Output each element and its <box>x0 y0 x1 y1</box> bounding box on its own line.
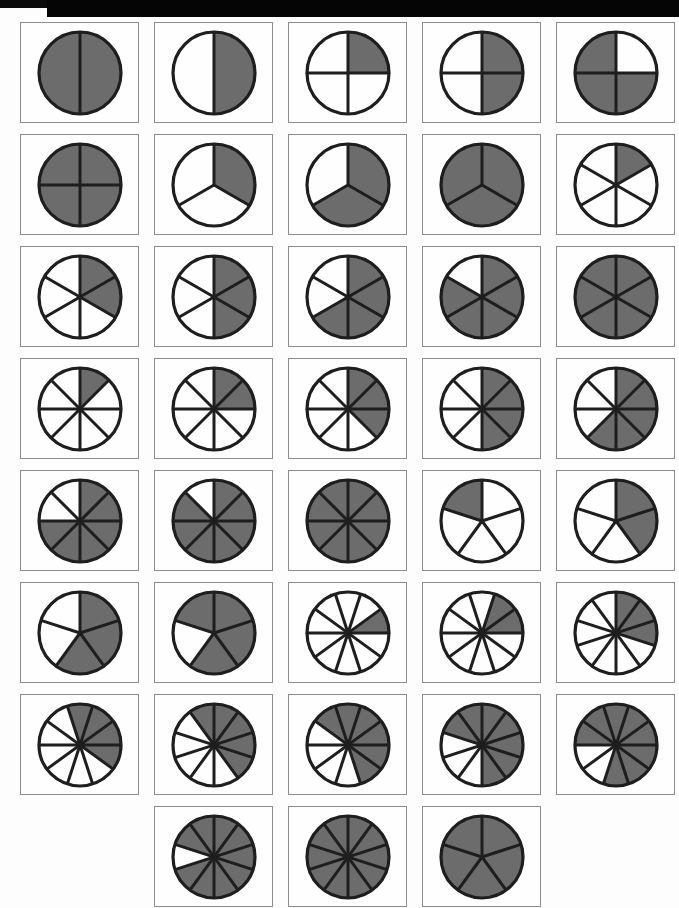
pie-circle-5-of-6 <box>435 250 529 344</box>
slice-shaded <box>214 32 255 114</box>
pie-circle-3-of-6 <box>167 250 261 344</box>
fraction-circle-cell <box>20 22 139 123</box>
fraction-circle-cell <box>556 134 675 235</box>
fraction-circle-cell <box>20 134 139 235</box>
fraction-circle-cell <box>556 470 675 571</box>
pie-circle-5-of-5 <box>435 810 529 904</box>
fraction-circle-cell <box>154 358 273 459</box>
fraction-circle-cell <box>556 22 675 123</box>
fraction-circle-cell <box>20 694 139 795</box>
pie-circle-6-of-8 <box>33 474 127 568</box>
fraction-circle-cell <box>154 806 273 907</box>
pie-circle-4-of-10 <box>33 698 127 792</box>
pie-circle-2-of-6 <box>33 250 127 344</box>
pie-circle-1-of-2 <box>167 26 261 120</box>
fraction-circle-cell <box>154 22 273 123</box>
pie-circle-6-of-6 <box>569 250 663 344</box>
pie-circle-6-of-10 <box>301 698 395 792</box>
pie-circle-2-of-8 <box>167 362 261 456</box>
fraction-circle-cell <box>20 358 139 459</box>
fraction-circle-cell <box>154 246 273 347</box>
slice-unshaded <box>173 32 214 114</box>
pie-circle-2-of-4 <box>435 26 529 120</box>
pie-circle-8-of-10 <box>569 698 663 792</box>
pie-circle-3-of-3 <box>435 138 529 232</box>
pie-circle-7-of-8 <box>167 474 261 568</box>
fraction-circle-cell <box>154 582 273 683</box>
fraction-circle-cell <box>422 694 541 795</box>
pie-circle-3-of-5 <box>33 586 127 680</box>
fraction-circle-cell <box>288 358 407 459</box>
fraction-circle-cell <box>422 806 541 907</box>
pie-circle-3-of-10 <box>569 586 663 680</box>
pie-circle-4-of-4 <box>33 138 127 232</box>
fraction-circle-cell <box>288 134 407 235</box>
slice-shaded <box>39 32 80 114</box>
fraction-circle-cell <box>556 582 675 683</box>
worksheet-page <box>0 0 679 908</box>
fraction-circle-cell <box>422 470 541 571</box>
pie-circle-1-of-10 <box>301 586 395 680</box>
scan-edge-bar <box>47 0 679 17</box>
pie-circle-4-of-8 <box>435 362 529 456</box>
pie-circle-5-of-8 <box>569 362 663 456</box>
pie-circle-1-of-5 <box>435 474 529 568</box>
fraction-circle-cell <box>154 470 273 571</box>
pie-circle-4-of-6 <box>301 250 395 344</box>
fraction-circle-cell <box>288 694 407 795</box>
fraction-circle-cell <box>20 470 139 571</box>
fraction-circle-cell <box>556 358 675 459</box>
pie-circle-2-of-5 <box>569 474 663 568</box>
fraction-circle-cell <box>288 22 407 123</box>
fraction-circle-cell <box>422 22 541 123</box>
fraction-circle-cell <box>288 470 407 571</box>
fraction-circle-cell <box>422 246 541 347</box>
pie-circle-9-of-10 <box>167 810 261 904</box>
fraction-circle-cell <box>288 246 407 347</box>
fraction-circle-cell <box>154 694 273 795</box>
pie-circle-1-of-8 <box>33 362 127 456</box>
pie-circle-7-of-10 <box>435 698 529 792</box>
pie-circle-1-of-4 <box>301 26 395 120</box>
pie-circle-3-of-8 <box>301 362 395 456</box>
pie-circle-1-of-3 <box>167 138 261 232</box>
pie-circle-4-of-5 <box>167 586 261 680</box>
fraction-circle-cell <box>154 134 273 235</box>
fraction-circle-cell <box>422 358 541 459</box>
fraction-circle-cell <box>20 582 139 683</box>
pie-circle-1-of-6 <box>569 138 663 232</box>
pie-circle-2-of-2 <box>33 26 127 120</box>
fraction-circle-cell <box>422 134 541 235</box>
pie-circle-8-of-8 <box>301 474 395 568</box>
slice-shaded <box>80 32 121 114</box>
fraction-circle-cell <box>20 246 139 347</box>
pie-circle-2-of-10 <box>435 586 529 680</box>
pie-circle-3-of-4 <box>569 26 663 120</box>
scan-edge-artifact-left <box>0 0 48 8</box>
pie-circle-5-of-10 <box>167 698 261 792</box>
fraction-circle-cell <box>288 806 407 907</box>
fraction-circle-cell <box>422 582 541 683</box>
pie-circle-2-of-3 <box>301 138 395 232</box>
fraction-circle-cell <box>556 246 675 347</box>
fraction-circle-cell <box>556 694 675 795</box>
pie-circle-10-of-10 <box>301 810 395 904</box>
fraction-circle-cell <box>288 582 407 683</box>
